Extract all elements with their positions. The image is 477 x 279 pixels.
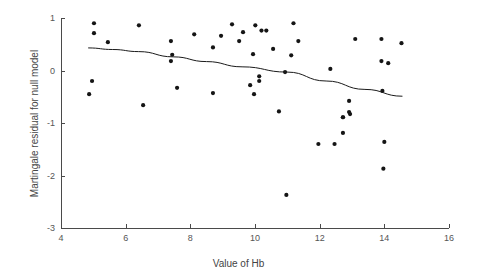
x-tick-label: 6 [111,233,141,243]
data-point [219,34,223,38]
data-point [87,92,91,96]
data-point [241,30,245,34]
data-point [347,99,351,103]
data-point [399,41,403,45]
data-point [296,39,300,43]
data-point [237,39,241,43]
data-point [169,39,173,43]
x-tick-label: 8 [175,233,205,243]
data-point [291,21,295,25]
data-point [90,79,94,83]
data-point [264,29,268,33]
data-point [253,23,257,27]
data-point [211,91,215,95]
data-point [316,142,320,146]
data-point [348,112,352,116]
x-tick-label: 12 [305,233,335,243]
data-point [137,23,141,27]
data-point [141,103,145,107]
data-point [211,45,215,49]
data-point [332,142,336,146]
data-point [271,47,275,51]
data-point [328,67,332,71]
data-point [251,52,255,56]
data-point [92,21,96,25]
data-point [289,53,293,57]
data-point [106,40,110,44]
data-point [92,31,96,35]
data-point [379,37,383,41]
x-tick-label: 14 [369,233,399,243]
data-points-group [87,21,404,197]
fit-curve [88,48,402,96]
data-point [277,109,281,113]
data-point [192,32,196,36]
y-axis-title: Martingale residual for null model [29,4,40,244]
data-point [169,59,173,63]
data-point [257,74,261,78]
data-point [382,140,386,144]
data-point [386,61,390,65]
data-point [175,86,179,90]
data-point [257,79,261,83]
data-point [353,37,357,41]
data-point [341,115,345,119]
data-point [341,131,345,135]
data-point [230,22,234,26]
scatter-plot-figure: 46810121416 10-1-2-3 Value of Hb Marting… [0,0,477,279]
x-axis-title: Value of Hb [0,258,477,269]
x-axis-ticks [62,224,450,228]
x-tick-label: 4 [46,233,76,243]
data-point [248,83,252,87]
data-point [170,53,174,57]
data-point [259,29,263,33]
data-point [252,92,256,96]
x-tick-label: 10 [240,233,270,243]
data-point [379,59,383,63]
x-tick-label: 16 [434,233,464,243]
data-point [284,193,288,197]
data-point [381,167,385,171]
